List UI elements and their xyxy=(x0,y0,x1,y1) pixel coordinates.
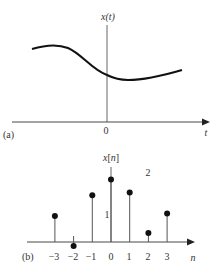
panel-b: x[n] 1 2 −3 −2 −1 0 1 2 3 n (b) xyxy=(22,152,196,263)
sample-dot xyxy=(145,230,151,236)
b-y-axis-label: x[n] xyxy=(102,152,119,163)
panel-b-label: (b) xyxy=(22,251,34,263)
a-x-axis-label: t xyxy=(205,127,208,138)
tick-label: −2 xyxy=(68,251,79,262)
tick-label: 2 xyxy=(146,251,151,262)
tick-label: −1 xyxy=(86,251,97,262)
signal-figure: x(t) 0 t (a) x[n] 1 2 −3 −2 −1 0 1 2 3 n… xyxy=(0,0,219,273)
panel-a-label: (a) xyxy=(3,129,14,141)
sample-dot xyxy=(127,190,133,196)
tick-label: −3 xyxy=(49,251,60,262)
sample-dot xyxy=(71,243,77,249)
sample-dot xyxy=(89,192,95,198)
level-label-2: 2 xyxy=(146,167,151,178)
b-tick-labels: −3 −2 −1 0 1 2 3 xyxy=(49,251,170,262)
tick-label: 1 xyxy=(127,251,132,262)
a-y-axis-label: x(t) xyxy=(100,11,116,23)
stem-plot xyxy=(52,177,170,249)
b-x-axis-arrow-icon xyxy=(187,239,195,246)
a-x-axis-arrow-icon xyxy=(202,119,210,126)
tick-label: 0 xyxy=(109,251,114,262)
tick-label: 3 xyxy=(165,251,170,262)
level-label-1: 1 xyxy=(105,209,110,220)
b-x-axis-label: n xyxy=(191,252,196,263)
a-origin-label: 0 xyxy=(104,125,109,136)
panel-a: x(t) 0 t (a) xyxy=(3,11,210,141)
sample-dot xyxy=(164,210,170,216)
sample-dot xyxy=(52,213,58,219)
sample-dot xyxy=(108,177,114,183)
